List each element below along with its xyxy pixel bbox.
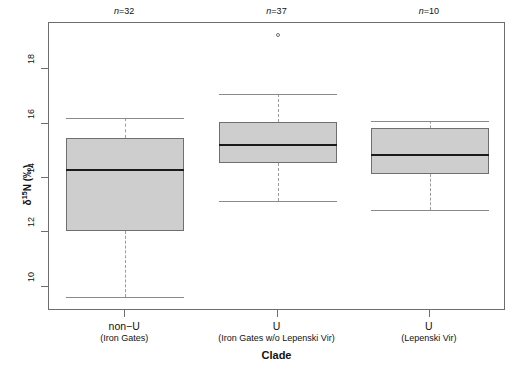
y-tick-mark [41, 68, 48, 69]
x-category-label-sub: (Lepenski Vir) [401, 333, 456, 344]
x-tick-mark [277, 310, 278, 317]
x-category-label-sub: (Iron Gates w/o Lepenski Vir) [218, 333, 334, 344]
y-axis-title-superscript: 15 [20, 191, 29, 199]
x-axis-title: Clade [262, 349, 292, 361]
whisker-cap-lower [66, 297, 184, 298]
whisker-cap-upper [66, 118, 184, 119]
x-category-label: U(Iron Gates w/o Lepenski Vir) [218, 320, 334, 344]
y-tick-label: 18 [26, 54, 36, 64]
x-category-label-main: U [401, 320, 456, 333]
y-tick-label: 10 [26, 272, 36, 282]
y-tick-mark [41, 231, 48, 232]
x-category-label-sub: (Iron Gates) [100, 333, 148, 344]
plot-area [48, 22, 505, 310]
whisker-lower [125, 231, 126, 298]
whisker-lower [278, 163, 279, 201]
y-tick-label: 14 [26, 163, 36, 173]
whisker-upper [125, 118, 126, 138]
x-category-label-main: U [218, 320, 334, 333]
whisker-cap-upper [219, 94, 337, 95]
x-category-label-main: non−U [100, 320, 148, 333]
y-tick-mark [41, 177, 48, 178]
whisker-cap-lower [371, 210, 489, 211]
x-category-label: non−U(Iron Gates) [100, 320, 148, 344]
sample-size-label: n=32 [114, 6, 134, 16]
median-line [66, 169, 184, 171]
box [219, 122, 337, 163]
y-tick-label: 16 [26, 109, 36, 119]
whisker-upper [430, 121, 431, 128]
whisker-lower [430, 174, 431, 211]
sample-size-label: n=37 [266, 6, 286, 16]
whisker-cap-lower [219, 201, 337, 202]
median-line [371, 154, 489, 156]
whisker-cap-upper [371, 121, 489, 122]
x-tick-mark [429, 310, 430, 317]
y-tick-label: 12 [26, 217, 36, 227]
whisker-upper [278, 94, 279, 123]
outlier-point [276, 33, 280, 37]
sample-size-label: n=10 [419, 6, 439, 16]
boxplot-figure: δ15N (‰) 1012141618 n=32n=37n=10 non−U(I… [0, 0, 517, 369]
x-tick-mark [124, 310, 125, 317]
y-axis-title-delta: δ [22, 199, 33, 205]
box [66, 138, 184, 230]
median-line [219, 144, 337, 146]
x-category-label: U(Lepenski Vir) [401, 320, 456, 344]
y-tick-mark [41, 286, 48, 287]
y-tick-mark [41, 123, 48, 124]
box [371, 128, 489, 174]
